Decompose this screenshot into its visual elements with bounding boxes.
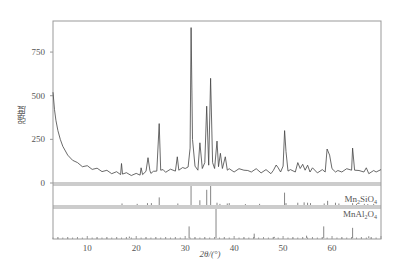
reference-label-mnal2o4: MnAl2O4 — [343, 209, 377, 220]
svg-text:750: 750 — [32, 47, 46, 57]
svg-text:250: 250 — [32, 134, 46, 144]
reference-label-mn2sio4: Mn2SiO4 — [344, 194, 377, 205]
plot-frame — [53, 21, 381, 239]
xrd-pattern-line — [53, 28, 381, 176]
reference-bars-mn2sio4 — [122, 186, 374, 205]
svg-text:0: 0 — [41, 178, 46, 188]
xrd-chart: 0250500750 102030405060 Mn2SiO4 MnAl2O4 … — [0, 0, 400, 265]
y-axis-title: 强度 — [14, 106, 27, 124]
svg-text:50: 50 — [279, 243, 289, 253]
svg-text:500: 500 — [32, 91, 46, 101]
svg-text:10: 10 — [83, 243, 93, 253]
reference-bars-mnal2o4 — [129, 209, 368, 238]
svg-text:60: 60 — [328, 243, 338, 253]
y-axis-ticks: 0250500750 — [32, 47, 54, 188]
svg-text:40: 40 — [230, 243, 240, 253]
x-axis-title: 2θ/(°) — [199, 249, 220, 259]
svg-text:30: 30 — [181, 243, 191, 253]
svg-text:20: 20 — [132, 243, 142, 253]
